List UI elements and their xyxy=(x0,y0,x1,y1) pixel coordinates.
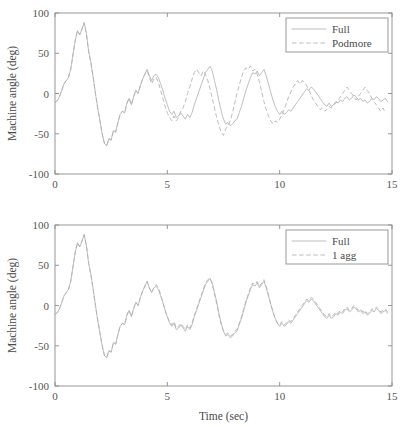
y-tick-label: 50 xyxy=(38,47,50,59)
y-tick-label: 50 xyxy=(38,259,50,271)
x-tick-label: 0 xyxy=(52,178,58,190)
chart-svg-bottom: -100-50050100051015Machine angle (deg)Ti… xyxy=(0,212,412,427)
y-tick-label: -100 xyxy=(29,380,50,392)
y-axis-title: Machine angle (deg) xyxy=(6,46,19,141)
legend-label-full: Full xyxy=(332,235,350,247)
chart-panel-top: -100-50050100051015Machine angle (deg)Fu… xyxy=(0,0,412,215)
chart-panel-bottom: -100-50050100051015Machine angle (deg)Ti… xyxy=(0,212,412,427)
x-tick-label: 15 xyxy=(387,178,399,190)
figure-container: -100-50050100051015Machine angle (deg)Fu… xyxy=(0,0,412,427)
legend-label-podmore: Podmore xyxy=(332,37,372,49)
x-tick-label: 0 xyxy=(52,390,58,402)
legend-label-full: Full xyxy=(332,23,350,35)
y-tick-label: 0 xyxy=(44,300,50,312)
chart-svg-top: -100-50050100051015Machine angle (deg)Fu… xyxy=(0,0,412,215)
legend-label-1-agg: 1 agg xyxy=(332,249,357,261)
x-tick-label: 5 xyxy=(165,390,171,402)
x-tick-label: 15 xyxy=(387,390,399,402)
y-axis-title: Machine angle (deg) xyxy=(6,258,19,353)
y-tick-label: 100 xyxy=(33,7,50,19)
x-tick-label: 10 xyxy=(274,178,286,190)
y-tick-label: 0 xyxy=(44,88,50,100)
x-axis-title: Time (sec) xyxy=(199,410,248,423)
y-tick-label: 100 xyxy=(33,219,50,231)
x-tick-label: 5 xyxy=(165,178,171,190)
y-tick-label: -100 xyxy=(29,168,50,180)
y-tick-label: -50 xyxy=(34,128,49,140)
x-tick-label: 10 xyxy=(274,390,286,402)
y-tick-label: -50 xyxy=(34,340,49,352)
